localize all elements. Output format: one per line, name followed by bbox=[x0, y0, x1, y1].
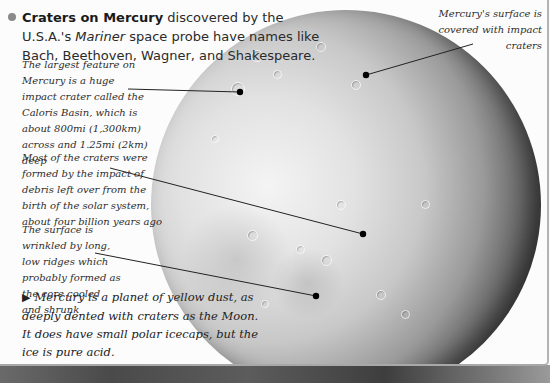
crater bbox=[261, 300, 269, 308]
main-caption: ▶Mercury is a planet of yellow dust, as … bbox=[22, 288, 262, 361]
crater bbox=[211, 135, 219, 143]
crater bbox=[351, 80, 361, 90]
content-panel: Craters on Mercury discovered by the U.S… bbox=[0, 0, 549, 366]
arrow-right-icon: ▶ bbox=[22, 291, 30, 304]
crater bbox=[321, 255, 332, 266]
bullet-icon bbox=[8, 13, 16, 21]
intro-highlight: Craters on Mercury bbox=[22, 10, 163, 25]
bottom-texture-band bbox=[0, 365, 550, 383]
crater bbox=[401, 310, 410, 319]
probe-name: Mariner bbox=[75, 29, 125, 44]
callout-impact-craters: Mercury's surface is covered with impact… bbox=[438, 6, 542, 54]
main-caption-text: Mercury is a planet of yellow dust, as d… bbox=[22, 290, 258, 359]
crater bbox=[247, 230, 258, 241]
crater bbox=[376, 290, 386, 300]
crater bbox=[296, 245, 305, 254]
callout-crater-formation: Most of the craters were formed by the i… bbox=[22, 150, 162, 230]
crater bbox=[421, 200, 430, 209]
crater bbox=[336, 200, 346, 210]
crater bbox=[273, 70, 282, 79]
crater bbox=[231, 82, 245, 96]
